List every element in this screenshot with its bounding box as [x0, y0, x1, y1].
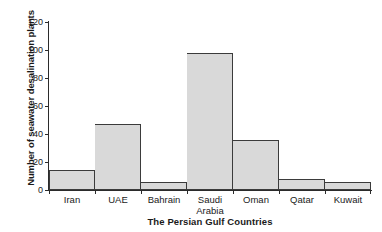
bar-cell — [279, 22, 325, 190]
bar-chart: Number of seawater desalination plants 0… — [0, 0, 382, 232]
bar — [49, 170, 95, 190]
bar-cell — [233, 22, 279, 190]
x-axis-category-label: Qatar — [279, 194, 325, 216]
bar-cell — [187, 22, 233, 190]
bar — [95, 124, 141, 190]
x-axis-labels: IranUAEBahrainSaudi ArabiaOmanQatarKuwai… — [49, 194, 371, 216]
plot-area: 020406080100120 — [49, 22, 371, 190]
bar-series — [49, 22, 371, 190]
bar — [325, 182, 371, 190]
x-axis-category-label: Oman — [233, 194, 279, 216]
bar — [279, 179, 325, 190]
y-axis-tick-label: 20 — [33, 158, 43, 167]
bar — [187, 53, 233, 190]
bar-cell — [49, 22, 95, 190]
y-axis-title: Number of seawater desalination plants — [22, 0, 40, 196]
y-axis-tick-label: 40 — [33, 130, 43, 139]
x-axis-category-label: Bahrain — [141, 194, 187, 216]
x-axis-category-label: Iran — [49, 194, 95, 216]
y-axis-tick-label: 120 — [28, 18, 43, 27]
x-axis-title: The Persian Gulf Countries — [49, 216, 371, 227]
y-axis-tick-label: 0 — [38, 186, 43, 195]
bar — [233, 140, 279, 190]
bar-cell — [141, 22, 187, 190]
x-axis-category-label: Saudi Arabia — [187, 194, 233, 216]
bar-cell — [95, 22, 141, 190]
y-axis-tick-label: 60 — [33, 102, 43, 111]
y-axis-tick-label: 80 — [33, 74, 43, 83]
x-axis-category-label: Kuwait — [325, 194, 371, 216]
y-axis-tick-label: 100 — [28, 46, 43, 55]
x-axis-category-label: UAE — [95, 194, 141, 216]
bar-cell — [325, 22, 371, 190]
bar — [141, 182, 187, 190]
